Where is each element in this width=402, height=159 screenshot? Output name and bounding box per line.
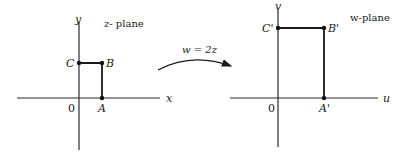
- mapping-label: w = 2z: [182, 44, 218, 55]
- point-a-prime: [322, 96, 326, 100]
- w-plane-title: w-plane: [350, 12, 390, 23]
- label-a: A: [97, 102, 106, 115]
- label-c: C: [66, 57, 75, 70]
- w-plane: v u 0 C' B' A' w-plane: [230, 0, 390, 147]
- w-origin-label: 0: [268, 102, 275, 115]
- z-origin-label: 0: [68, 102, 75, 115]
- point-a: [100, 96, 104, 100]
- w-rectangle: [278, 28, 324, 98]
- point-c-prime: [276, 26, 280, 30]
- v-axis-label: v: [275, 0, 282, 13]
- z-plane: y x 0 C B A z- plane: [17, 13, 173, 150]
- point-c: [77, 61, 81, 65]
- u-axis-label: u: [383, 92, 390, 105]
- y-axis-label: y: [74, 13, 82, 26]
- z-plane-title-rest: - plane: [109, 18, 144, 29]
- w-plane-title-rest: -plane: [359, 12, 390, 23]
- z-plane-title: z- plane: [103, 18, 144, 29]
- mapping-diagram: y x 0 C B A z- plane w = 2z v u 0 C' B' …: [0, 0, 402, 159]
- x-axis-label: x: [166, 92, 173, 105]
- label-b: B: [105, 57, 114, 70]
- label-a-prime: A': [318, 102, 330, 115]
- curved-arrow-icon: [158, 60, 231, 70]
- label-b-prime: B': [327, 22, 339, 35]
- z-rectangle: [79, 63, 102, 98]
- mapping: w = 2z: [158, 44, 231, 70]
- point-b: [100, 61, 104, 65]
- label-c-prime: C': [262, 22, 273, 35]
- point-b-prime: [322, 26, 326, 30]
